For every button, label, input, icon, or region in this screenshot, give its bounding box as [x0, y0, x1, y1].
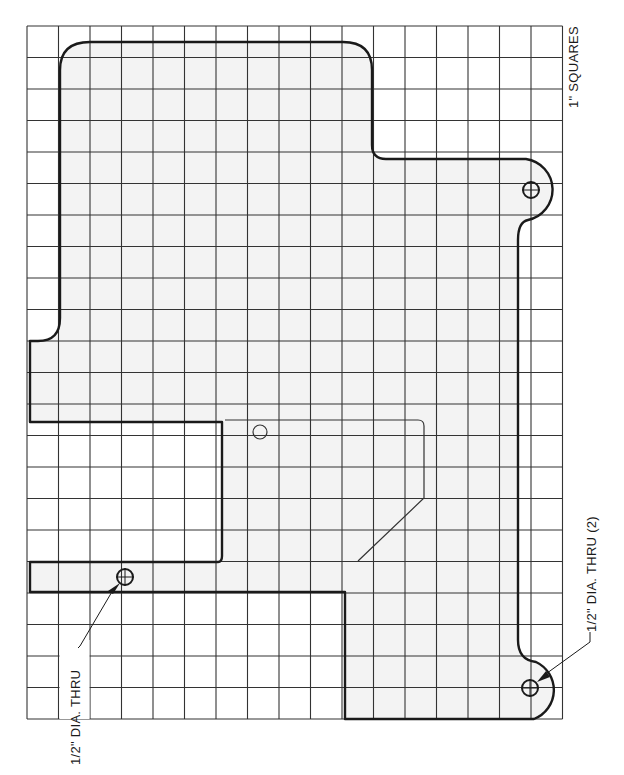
part-outline	[30, 42, 554, 719]
hole-single-label: 1/2" DIA. THRU	[68, 670, 83, 765]
hole-single	[116, 568, 134, 586]
hole-double-label: 1/2" DIA. THRU (2)	[584, 516, 599, 632]
leader-double	[537, 632, 590, 682]
hole-bottom-right	[521, 679, 539, 697]
part-shape	[30, 42, 554, 719]
pattern-drawing: 1" SQUARES 1/2" DIA. THRU 1/2" DIA. THRU…	[0, 0, 624, 775]
hole-top-right	[522, 181, 540, 199]
scale-label: 1" SQUARES	[566, 26, 581, 108]
